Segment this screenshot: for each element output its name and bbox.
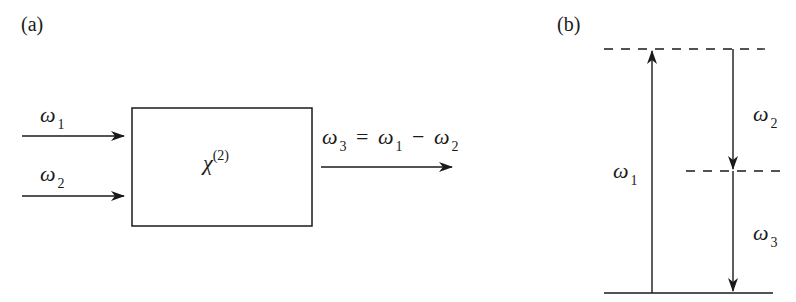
input-label-omega2: ω2 (40, 163, 65, 185)
subscript: 2 (771, 116, 778, 131)
omega-symbol: ω (434, 124, 450, 149)
label-omega3-b: ω3 (753, 222, 778, 244)
subscript: 2 (451, 139, 458, 154)
label-omega2-b: ω2 (753, 103, 778, 125)
minus-sign: − (412, 124, 424, 149)
subscript: 2 (58, 176, 65, 191)
omega-symbol: ω (613, 158, 629, 183)
input-label-omega1: ω1 (40, 104, 65, 126)
subscript: 1 (631, 173, 638, 188)
omega-symbol: ω (753, 220, 769, 245)
subscript: 1 (58, 117, 65, 132)
panel-a-label: (a) (21, 14, 43, 34)
output-equation: ω3 = ω1 − ω2 (322, 126, 458, 148)
subscript: 3 (771, 235, 778, 250)
panel-b-label: (b) (557, 14, 580, 34)
superscript: (2) (213, 148, 229, 163)
equals-sign: = (356, 124, 368, 149)
omega-symbol: ω (40, 161, 56, 186)
omega-symbol: ω (378, 124, 394, 149)
subscript: 3 (340, 139, 347, 154)
subscript: 1 (396, 139, 403, 154)
chi2-label: χ(2) (203, 152, 229, 174)
omega-symbol: ω (753, 101, 769, 126)
omega-symbol: ω (40, 102, 56, 127)
label-omega1-b: ω1 (613, 160, 638, 182)
omega-symbol: ω (322, 124, 338, 149)
chi-symbol: χ (203, 150, 213, 175)
